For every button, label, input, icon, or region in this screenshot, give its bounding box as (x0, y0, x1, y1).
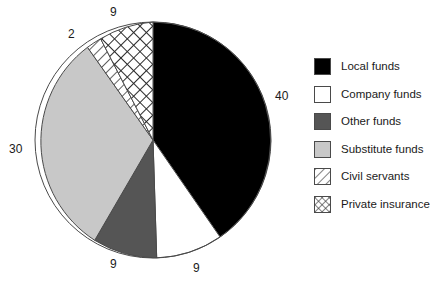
slice-label-local-funds: 40 (275, 90, 288, 102)
slice-label-civil-servants: 2 (68, 28, 75, 40)
legend-label-other-funds: Other funds (341, 115, 401, 128)
solid-white-swatch-icon (314, 86, 331, 103)
pie-chart-figure: 40 9 9 30 2 9 Local funds Company funds … (0, 0, 440, 286)
slice-label-private-insurance: 9 (110, 6, 117, 18)
diagonal-hatch-swatch-icon (314, 168, 331, 185)
legend-item-other-funds: Other funds (314, 108, 440, 136)
legend-label-private-insurance: Private insurance (341, 198, 430, 211)
slice-label-substitute-funds: 30 (9, 143, 22, 155)
legend-label-company-funds: Company funds (341, 88, 422, 101)
solid-light-gray-swatch-icon (314, 141, 331, 158)
legend-item-company-funds: Company funds (314, 81, 440, 109)
legend: Local funds Company funds Other funds Su… (314, 53, 440, 218)
legend-label-local-funds: Local funds (341, 60, 400, 73)
legend-item-local-funds: Local funds (314, 53, 440, 81)
legend-label-civil-servants: Civil servants (341, 170, 409, 183)
solid-dark-gray-swatch-icon (314, 113, 331, 130)
legend-item-civil-servants: Civil servants (314, 163, 440, 191)
cross-hatch-swatch-icon (314, 196, 331, 213)
legend-label-substitute-funds: Substitute funds (341, 143, 423, 156)
pie-plot-area: 40 9 9 30 2 9 (0, 0, 300, 286)
slice-label-company-funds: 9 (193, 262, 200, 274)
pie-svg (0, 0, 300, 286)
legend-item-private-insurance: Private insurance (314, 191, 440, 219)
slice-label-other-funds: 9 (110, 258, 117, 270)
legend-item-substitute-funds: Substitute funds (314, 136, 440, 164)
solid-black-swatch-icon (314, 58, 331, 75)
